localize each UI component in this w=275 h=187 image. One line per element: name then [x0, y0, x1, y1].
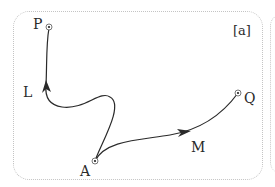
point-q-icon: [235, 90, 241, 96]
label-p: P: [33, 17, 42, 31]
point-p-icon: [46, 24, 52, 30]
point-a-icon: [92, 158, 98, 164]
panel-label: [a]: [233, 24, 251, 37]
label-q: Q: [244, 91, 255, 105]
label-m: M: [191, 140, 205, 154]
path-m-curve: [95, 93, 238, 161]
label-a: A: [80, 164, 90, 178]
label-l: L: [23, 85, 32, 99]
path-l-curve: [46, 28, 115, 161]
